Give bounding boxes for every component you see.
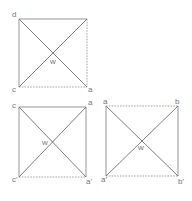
label-center: w: [41, 138, 48, 147]
square-top: d c a w: [12, 10, 93, 94]
label-bottom-right: b': [178, 177, 184, 186]
label-top-left: d: [12, 10, 16, 19]
label-bottom-left: c: [12, 85, 16, 94]
label-top-right: a: [88, 98, 93, 107]
label-bottom-left: c': [12, 175, 18, 184]
label-center: w: [137, 143, 144, 152]
label-bottom-right: a': [86, 177, 92, 186]
label-bottom-right: a: [88, 85, 93, 94]
square-bottom-left: c a c' a' w: [12, 98, 93, 186]
label-bottom-left: a': [101, 175, 107, 184]
label-top-right: b: [175, 97, 180, 106]
diagram-canvas: d c a w c a c' a' w a b a' b' w: [0, 0, 192, 201]
square-bottom-right: a b a' b' w: [101, 97, 184, 186]
label-center: w: [49, 57, 56, 66]
label-top-left: a: [103, 97, 108, 106]
label-top-left: c: [12, 101, 16, 110]
